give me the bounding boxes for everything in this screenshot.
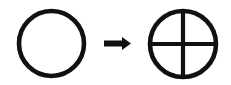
transformation-diagram	[0, 0, 231, 85]
diagram-canvas: Circle transformed into quartered circle	[0, 0, 231, 85]
target-shape-group	[150, 11, 216, 77]
arrow-shaft	[104, 41, 123, 47]
